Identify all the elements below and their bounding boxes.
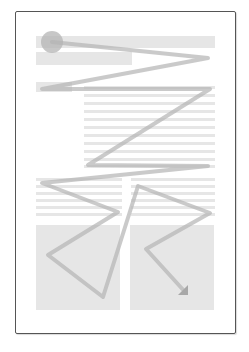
reading-path-overlay <box>0 0 249 352</box>
zigzag-path <box>42 42 210 297</box>
